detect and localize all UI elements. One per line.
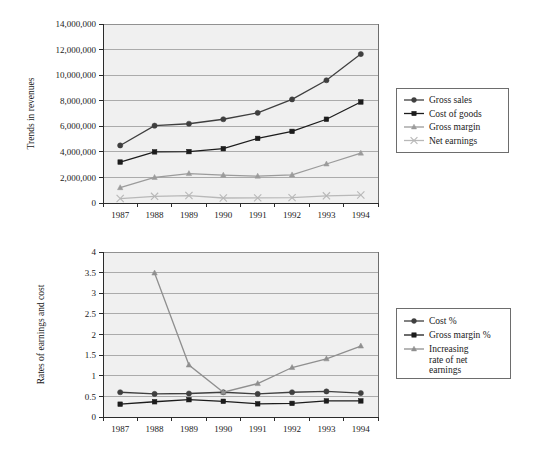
y-tick-label: 0.5 (85, 392, 97, 402)
marker-circle (412, 98, 417, 103)
y-tick-label: 10,000,000 (56, 70, 97, 80)
x-tick-label: 1991 (249, 210, 267, 220)
marker-circle (255, 391, 260, 396)
marker-square (221, 146, 226, 151)
x-tick-label: 1989 (180, 210, 199, 220)
y-axis-title: Rates of earnings and cost (36, 284, 46, 384)
marker-circle (358, 51, 363, 56)
x-tick-label: 1987 (111, 210, 130, 220)
legend: Cost %Gross margin %Increasingrate of ne… (396, 308, 510, 378)
marker-square (324, 117, 329, 122)
chart-rates-of-earnings-and-cost: 00.511.522.533.5419871988198919901991199… (0, 232, 543, 463)
figure-page: 02,000,0004,000,0006,000,0008,000,00010,… (0, 0, 543, 463)
legend-item-label: Increasing (429, 344, 469, 354)
x-tick-label: 1987 (111, 424, 130, 434)
marker-square (152, 150, 157, 155)
marker-square (324, 399, 329, 404)
marker-circle (186, 121, 191, 126)
legend-item-label: Net earnings (429, 136, 478, 146)
y-tick-label: 12,000,000 (56, 45, 97, 55)
legend-item-label: earnings (429, 365, 461, 375)
legend-item-label: Cost of goods (429, 109, 482, 119)
marker-circle (289, 390, 294, 395)
marker-square (359, 399, 364, 404)
y-tick-label: 1 (92, 371, 97, 381)
y-axis: 00.511.522.533.54 (85, 247, 103, 422)
marker-square (187, 397, 192, 402)
legend-item-label: Gross sales (429, 95, 472, 105)
marker-square (152, 399, 157, 404)
y-axis-title: Trends in revenues (26, 77, 36, 149)
marker-circle (152, 123, 157, 128)
marker-circle (324, 389, 329, 394)
marker-square (255, 402, 260, 407)
marker-circle (186, 391, 191, 396)
y-tick-label: 4,000,000 (60, 147, 97, 157)
y-tick-label: 1.5 (85, 350, 97, 360)
marker-square (412, 333, 416, 337)
y-tick-label: 0 (92, 412, 97, 422)
marker-square (359, 100, 364, 105)
x-tick-label: 1993 (317, 210, 336, 220)
marker-circle (255, 110, 260, 115)
x-tick-label: 1990 (214, 424, 233, 434)
marker-circle (118, 390, 123, 395)
x-tick-label: 1992 (283, 424, 301, 434)
legend-item-label: rate of net (429, 355, 468, 365)
x-tick-label: 1994 (352, 210, 371, 220)
chart-trends-in-revenues: 02,000,0004,000,0006,000,0008,000,00010,… (0, 0, 543, 232)
y-tick-label: 4 (92, 247, 97, 257)
x-tick-label: 1988 (146, 210, 165, 220)
y-tick-label: 6,000,000 (60, 121, 97, 131)
marker-square (255, 136, 260, 141)
legend-item-label: Gross margin (429, 122, 481, 132)
x-tick-label: 1989 (180, 424, 199, 434)
x-tick-label: 1990 (214, 210, 233, 220)
marker-square (118, 402, 123, 407)
marker-square (187, 149, 192, 154)
marker-square (118, 160, 123, 165)
x-tick-label: 1993 (317, 424, 336, 434)
x-axis: 19871988198919901991199219931994 (103, 417, 378, 434)
legend-item-label: Gross margin % (429, 330, 491, 340)
x-tick-label: 1988 (146, 424, 165, 434)
y-tick-label: 3.5 (85, 268, 97, 278)
marker-circle (152, 391, 157, 396)
marker-square (290, 129, 295, 134)
y-tick-label: 3 (92, 288, 97, 298)
marker-square (290, 401, 295, 406)
x-axis: 19871988198919901991199219931994 (103, 203, 378, 220)
marker-circle (221, 117, 226, 122)
marker-circle (118, 143, 123, 148)
marker-circle (289, 97, 294, 102)
x-tick-label: 1994 (352, 424, 371, 434)
y-tick-label: 2.5 (85, 309, 97, 319)
y-axis: 02,000,0004,000,0006,000,0008,000,00010,… (56, 19, 104, 208)
legend: Gross salesCost of goodsGross marginNet … (396, 88, 508, 152)
x-tick-label: 1991 (249, 424, 267, 434)
y-tick-label: 2 (92, 330, 97, 340)
marker-square (221, 399, 226, 404)
y-tick-label: 2,000,000 (60, 173, 97, 183)
y-tick-label: 0 (92, 198, 97, 208)
marker-circle (324, 78, 329, 83)
x-tick-label: 1992 (283, 210, 301, 220)
marker-square (412, 111, 416, 115)
marker-circle (412, 319, 417, 324)
marker-circle (358, 390, 363, 395)
legend-item-label: Cost % (429, 316, 457, 326)
y-tick-label: 14,000,000 (56, 19, 97, 29)
y-tick-label: 8,000,000 (60, 96, 97, 106)
